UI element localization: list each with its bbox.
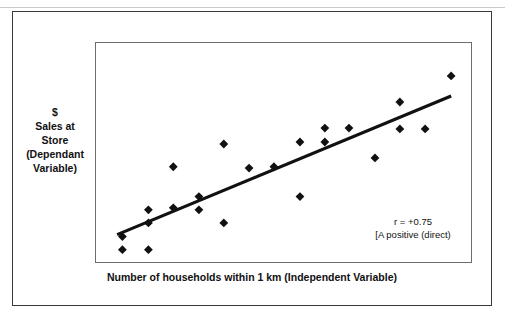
y-axis-label-line-4: (Dependant (16, 147, 94, 161)
data-point-marker (371, 154, 380, 163)
y-axis-label-line-1: $ (16, 105, 94, 119)
data-point-marker (395, 125, 404, 134)
trend-line (117, 96, 451, 235)
y-axis-label-line-3: Store (16, 133, 94, 147)
y-axis-label-line-5: Variable) (16, 161, 94, 175)
trend-line-segment (117, 96, 451, 235)
data-point-marker (195, 205, 204, 214)
plot-area: r = +0.75 [A positive (direct) (95, 42, 472, 263)
data-point-marker (169, 162, 178, 171)
scatter-plot-figure: $ Sales at Store (Dependant Variable) r … (0, 0, 505, 322)
x-axis-label: Number of households within 1 km (Indepe… (12, 271, 492, 283)
data-point-marker (144, 245, 153, 254)
data-point-marker (296, 192, 305, 201)
scan-artifact-line (0, 7, 505, 8)
correlation-description: [A positive (direct) (358, 228, 468, 241)
data-point-marker (118, 245, 127, 254)
y-axis-label-line-2: Sales at (16, 119, 94, 133)
data-point-marker (421, 125, 430, 134)
data-point-marker (296, 138, 305, 147)
data-point-marker (245, 164, 254, 173)
data-point-marker (144, 205, 153, 214)
correlation-value: r = +0.75 (358, 215, 468, 228)
correlation-annotation: r = +0.75 [A positive (direct) (358, 215, 468, 241)
data-point-marker (219, 140, 228, 149)
data-point-marker (447, 72, 456, 81)
data-point-marker (320, 124, 329, 133)
data-point-marker (320, 138, 329, 147)
y-axis-label: $ Sales at Store (Dependant Variable) (16, 105, 94, 175)
data-point-marker (395, 98, 404, 107)
data-point-marker (219, 218, 228, 227)
data-point-marker (345, 124, 354, 133)
